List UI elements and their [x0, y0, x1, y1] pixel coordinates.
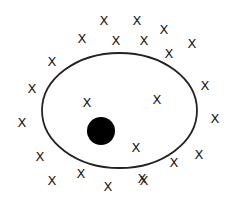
x-marker-outside: X	[48, 54, 57, 69]
x-marker-outside: X	[77, 166, 86, 181]
x-marker-outside: X	[201, 78, 210, 93]
x-marker-outside: X	[140, 33, 149, 48]
x-marker-outside: X	[78, 31, 87, 46]
x-marker-outside: X	[160, 22, 169, 37]
diagram-canvas: XXXXXXXXXXXXXXXXXXXXXXXX	[0, 0, 228, 204]
x-marker-outside: X	[188, 36, 197, 51]
filled-circle	[87, 117, 115, 145]
x-marker-outside: X	[112, 33, 121, 48]
x-marker-inside: X	[83, 95, 92, 110]
x-marker-outside: X	[165, 46, 174, 61]
x-marker-outside: X	[195, 147, 204, 162]
enclosing-ellipse	[42, 53, 197, 168]
x-marker-outside: X	[100, 13, 109, 28]
x-markers: XXXXXXXXXXXXXXXXXXXXXXXX	[18, 13, 220, 194]
x-marker-inside: X	[132, 140, 141, 155]
x-marker-outside: X	[211, 111, 220, 126]
x-marker-outside: X	[28, 81, 37, 96]
x-marker-outside: X	[36, 149, 45, 164]
x-marker-outside: X	[170, 155, 179, 170]
x-marker-inside: X	[153, 92, 162, 107]
x-marker-outside: X	[104, 179, 113, 194]
x-marker-outside: X	[18, 115, 27, 130]
x-marker-outside: X	[133, 13, 142, 28]
x-marker-outside: X	[48, 173, 57, 188]
x-marker-outside: X	[138, 171, 147, 186]
